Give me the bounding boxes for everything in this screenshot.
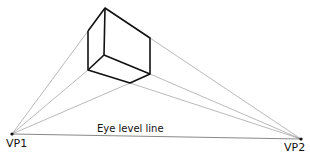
- vp2-label: VP2: [284, 142, 305, 153]
- guide-vp2-right-bottom: [150, 74, 301, 139]
- eye-level-label: Eye level line: [97, 124, 164, 134]
- vp1-point: [10, 132, 13, 135]
- guide-vp2-right-top: [150, 38, 301, 139]
- box: [88, 8, 150, 83]
- guide-vp1-left-top: [12, 31, 88, 134]
- guide-vp1-left-bottom: [12, 70, 88, 134]
- vp1-label: VP1: [6, 138, 27, 149]
- eye-level-line: [12, 134, 301, 139]
